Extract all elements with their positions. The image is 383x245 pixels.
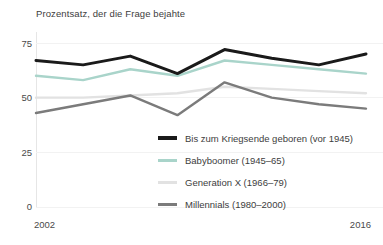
x-tick-label-end: 2016 (350, 219, 371, 230)
chart-container: Prozentsatz, der die Frage bejahte 75 50… (0, 0, 383, 245)
legend-item-generation-x[interactable]: Generation X (1966–79) (158, 172, 383, 192)
legend-label-babyboomer: Babyboomer (1945–65) (185, 155, 285, 166)
legend-swatch-babyboomer (158, 159, 177, 162)
legend-item-millennials[interactable]: Millennials (1980–2000) (158, 194, 383, 214)
legend-label-millennials: Millennials (1980–2000) (185, 199, 286, 210)
legend-swatch-generation-x (158, 181, 177, 184)
series-line-2 (36, 87, 366, 98)
x-tick-label-start: 2002 (34, 219, 55, 230)
legend-swatch-millennials (158, 203, 177, 206)
legend-label-generation-x: Generation X (1966–79) (185, 177, 287, 188)
legend-label-war-generation: Bis zum Kriegsende geboren (vor 1945) (185, 133, 353, 144)
legend-item-babyboomer[interactable]: Babyboomer (1945–65) (158, 150, 383, 170)
legend-item-war-generation[interactable]: Bis zum Kriegsende geboren (vor 1945) (158, 128, 383, 148)
legend-swatch-war-generation (158, 136, 177, 140)
chart-legend: Bis zum Kriegsende geboren (vor 1945) Ba… (158, 128, 383, 216)
